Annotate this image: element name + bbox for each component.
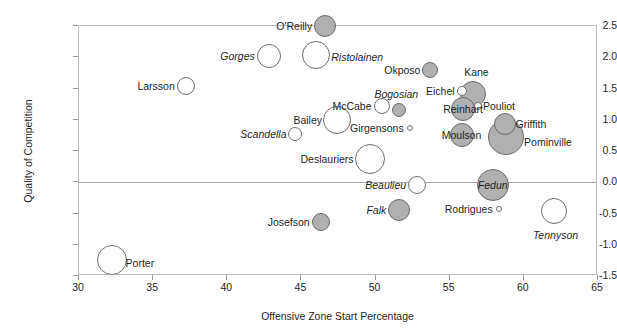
x-axis-tick-label: 50 [355, 281, 395, 293]
data-point-label: Griffith [516, 119, 547, 130]
data-point-label: Bailey [293, 114, 322, 125]
x-axis-tick-label: 35 [132, 281, 172, 293]
data-point-label: Fedun [478, 180, 508, 191]
x-axis-tick [226, 275, 227, 280]
x-axis-tick [597, 275, 598, 280]
x-axis-tick [523, 275, 524, 280]
x-axis-tick-label: 60 [503, 281, 543, 293]
data-point-label: Pominville [524, 137, 572, 148]
data-point-bubble[interactable] [541, 198, 567, 224]
data-point-label: Falk [366, 204, 386, 215]
data-point-label: Porter [126, 257, 155, 268]
zero-reference-line [79, 182, 596, 183]
data-point-bubble[interactable] [496, 206, 502, 212]
data-point-bubble[interactable] [355, 144, 385, 174]
bubble-chart: Quality of Competition 2.52.01.51.00.50.… [0, 0, 617, 336]
plot-area: O'ReillyRistolainenGorgesOkposoLarssonKa… [78, 25, 597, 275]
x-axis-tick-label: 55 [429, 281, 469, 293]
data-point-bubble[interactable] [312, 213, 330, 231]
x-axis-tick [152, 275, 153, 280]
x-axis-title: Offensive Zone Start Percentage [78, 310, 597, 322]
data-point-bubble[interactable] [302, 41, 330, 69]
clipped-chart-title [0, 0, 617, 3]
data-point-label: Scandella [240, 129, 286, 140]
data-point-bubble[interactable] [422, 62, 438, 78]
data-point-bubble[interactable] [408, 176, 426, 194]
x-axis-tick-label: 30 [58, 281, 98, 293]
data-point-bubble[interactable] [494, 113, 516, 135]
data-point-label: Gorges [220, 51, 254, 62]
x-axis-tick [449, 275, 450, 280]
data-point-label: Ristolainen [331, 51, 383, 62]
data-point-bubble[interactable] [374, 98, 390, 114]
data-point-label: O'Reilly [276, 21, 312, 32]
y-axis-title: Quality of Competition [22, 51, 34, 251]
data-point-bubble[interactable] [388, 199, 410, 221]
x-axis-tick-label: 65 [577, 281, 617, 293]
data-point-label: Moulson [442, 129, 482, 140]
data-point-label: Okposo [384, 64, 420, 75]
data-point-bubble[interactable] [392, 103, 406, 117]
data-point-label: Reinhart [443, 103, 483, 114]
data-point-label: Eichel [426, 86, 455, 97]
data-point-label: Larsson [137, 81, 174, 92]
x-axis-tick [78, 275, 79, 280]
data-point-label: McCabe [332, 101, 371, 112]
data-point-label: Josefson [268, 217, 310, 228]
data-point-bubble[interactable] [177, 77, 195, 95]
data-point-label: Girgensons [350, 122, 404, 133]
data-point-label: Bogosian [374, 89, 418, 100]
x-axis-tick [300, 275, 301, 280]
data-point-label: Tennyson [533, 230, 578, 241]
data-point-bubble[interactable] [314, 15, 336, 37]
data-point-label: Deslauriers [301, 153, 354, 164]
data-point-bubble[interactable] [457, 86, 467, 96]
data-point-label: Kane [464, 66, 489, 77]
x-axis-tick [375, 275, 376, 280]
data-point-bubble[interactable] [257, 44, 281, 68]
data-point-bubble[interactable] [407, 125, 413, 131]
x-axis-tick-label: 45 [280, 281, 320, 293]
data-point-label: Rodrigues [445, 203, 493, 214]
x-axis-tick-label: 40 [206, 281, 246, 293]
data-point-bubble[interactable] [288, 127, 302, 141]
data-point-label: Pouliot [483, 101, 515, 112]
data-point-label: Beaulieu [365, 179, 406, 190]
data-point-bubble[interactable] [97, 245, 127, 275]
